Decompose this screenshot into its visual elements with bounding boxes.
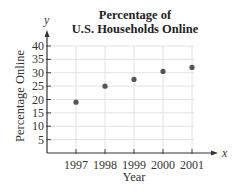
x-tick-label: 2001 [180, 158, 204, 172]
y-tick-label: 5 [38, 133, 44, 147]
y-axis-arrow-icon [45, 30, 50, 37]
x-tick-label: 1999 [122, 158, 146, 172]
y-tick-label: 40 [32, 39, 44, 53]
data-point [160, 69, 165, 74]
data-point [131, 77, 136, 82]
y-tick-label: 10 [32, 119, 44, 133]
y-tick-label: 35 [32, 52, 44, 66]
y-tick-label: 30 [32, 66, 44, 80]
data-point [189, 65, 194, 70]
data-point [102, 84, 107, 89]
x-tick-label: 2000 [151, 158, 175, 172]
x-tick-label: 1997 [64, 158, 88, 172]
y-axis-letter: y [43, 13, 50, 27]
x-axis-arrow-icon [211, 151, 218, 156]
plot-area: 51015202530354019971998199920002001xy [0, 0, 232, 193]
x-axis-letter: x [221, 146, 228, 160]
y-tick-label: 25 [32, 79, 44, 93]
y-tick-label: 20 [32, 93, 44, 107]
x-tick-label: 1998 [93, 158, 117, 172]
y-tick-label: 15 [32, 106, 44, 120]
data-point [73, 100, 78, 105]
